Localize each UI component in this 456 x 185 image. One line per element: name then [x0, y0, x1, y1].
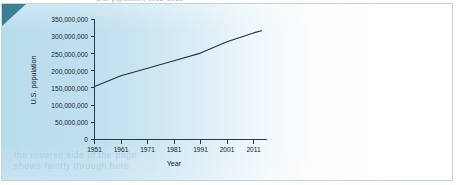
- x-axis-tick-labels: 1951 1961 1971 1981 1991 2001 2011: [87, 146, 261, 153]
- y-axis-ticks: [91, 20, 95, 140]
- y-tick-label: 50,000,000: [55, 119, 88, 126]
- x-tick-label: 2001: [220, 146, 235, 153]
- x-tick-label: 1971: [140, 146, 155, 153]
- x-axis-ticks: [95, 140, 254, 144]
- x-axis-title: Year: [167, 159, 182, 168]
- line-chart: 350,000,000 300,000,000 250,000,000 200,…: [0, 0, 456, 185]
- x-tick-label: 2011: [246, 146, 261, 153]
- y-axis-tick-labels: 350,000,000 300,000,000 250,000,000 200,…: [51, 16, 88, 143]
- y-tick-label: 300,000,000: [51, 33, 88, 40]
- chart-svg: 350,000,000 300,000,000 250,000,000 200,…: [0, 0, 456, 185]
- y-tick-label: 100,000,000: [51, 102, 88, 109]
- y-tick-label: 150,000,000: [51, 85, 88, 92]
- y-tick-label: 350,000,000: [51, 16, 88, 23]
- population-line-series: [95, 31, 262, 87]
- y-tick-label: 0: [84, 136, 88, 143]
- screenshot-root: U.S. population, 1951–2013 the reverse s…: [0, 0, 456, 185]
- y-axis-title: U.S. population: [29, 55, 38, 104]
- x-tick-label: 1991: [193, 146, 208, 153]
- y-tick-label: 200,000,000: [51, 68, 88, 75]
- x-tick-label: 1981: [167, 146, 182, 153]
- y-tick-label: 250,000,000: [51, 51, 88, 58]
- x-tick-label: 1961: [114, 146, 129, 153]
- x-tick-label: 1951: [87, 146, 102, 153]
